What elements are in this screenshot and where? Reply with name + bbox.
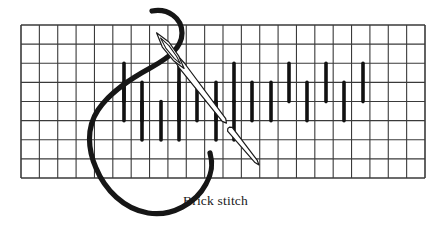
- brick-stitch-figure: Brick stitch: [0, 0, 447, 230]
- figure-caption: Brick stitch: [183, 193, 248, 208]
- diagram-canvas: Brick stitch: [0, 0, 447, 230]
